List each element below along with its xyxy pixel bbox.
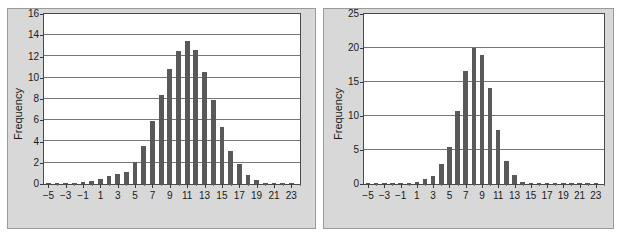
bar — [141, 146, 146, 184]
x-minor-tick-mark — [144, 184, 145, 186]
bar — [463, 71, 467, 184]
bar — [124, 172, 129, 184]
bar — [447, 147, 451, 184]
y-tick-mark — [40, 163, 44, 164]
y-tick-mark — [360, 82, 364, 83]
x-tick-mark — [274, 184, 275, 188]
x-tick-label: −1 — [74, 191, 92, 201]
x-minor-tick-mark — [109, 184, 110, 186]
bar-series-right — [364, 14, 604, 184]
x-minor-tick-mark — [376, 184, 377, 186]
x-tick-mark — [257, 184, 258, 188]
y-tick-label: 0 — [337, 179, 359, 189]
y-tick-mark — [40, 78, 44, 79]
x-minor-tick-mark — [604, 184, 605, 186]
bar — [455, 111, 459, 184]
x-tick-mark — [433, 184, 434, 188]
bar — [176, 51, 181, 184]
x-tick-label: 3 — [109, 191, 127, 201]
x-tick-mark — [515, 184, 516, 188]
x-minor-tick-mark — [213, 184, 214, 186]
x-tick-mark — [596, 184, 597, 188]
x-minor-tick-mark — [523, 184, 524, 186]
y-tick-mark — [40, 14, 44, 15]
x-tick-mark — [401, 184, 402, 188]
bar — [472, 48, 476, 184]
x-tick-label: −3 — [57, 191, 75, 201]
y-tick-label: 12 — [17, 52, 39, 62]
x-tick-mark — [66, 184, 67, 188]
x-tick-mark — [118, 184, 119, 188]
y-tick-mark — [40, 35, 44, 36]
x-tick-mark — [152, 184, 153, 188]
bar — [246, 175, 251, 184]
x-tick-label: 9 — [161, 191, 179, 201]
x-minor-tick-mark — [571, 184, 572, 186]
y-tick-mark — [40, 120, 44, 121]
x-minor-tick-mark — [458, 184, 459, 186]
x-minor-tick-mark — [265, 184, 266, 186]
x-tick-label: 17 — [230, 191, 248, 201]
x-minor-tick-mark — [409, 184, 410, 186]
y-tick-mark — [360, 150, 364, 151]
x-tick-mark — [547, 184, 548, 188]
x-tick-mark — [48, 184, 49, 188]
x-tick-mark — [291, 184, 292, 188]
x-tick-label: 5 — [126, 191, 144, 201]
bar — [202, 72, 207, 184]
x-tick-mark — [531, 184, 532, 188]
y-tick-mark — [360, 48, 364, 49]
x-minor-tick-mark — [283, 184, 284, 186]
x-tick-label: 13 — [196, 191, 214, 201]
x-tick-mark — [170, 184, 171, 188]
x-tick-label: 1 — [91, 191, 109, 201]
x-minor-tick-mark — [57, 184, 58, 186]
x-minor-tick-mark — [74, 184, 75, 186]
x-tick-mark — [222, 184, 223, 188]
y-tick-label: 10 — [337, 111, 359, 121]
x-minor-tick-mark — [441, 184, 442, 186]
y-tick-label: 14 — [17, 30, 39, 40]
y-tick-label: 25 — [337, 9, 359, 19]
x-tick-mark — [83, 184, 84, 188]
x-tick-mark — [135, 184, 136, 188]
x-minor-tick-mark — [92, 184, 93, 186]
x-tick-mark — [580, 184, 581, 188]
y-tick-label: 4 — [17, 137, 39, 147]
bar — [150, 121, 155, 184]
y-tick-label: 10 — [17, 73, 39, 83]
y-tick-mark — [40, 99, 44, 100]
x-tick-mark — [498, 184, 499, 188]
x-minor-tick-mark — [196, 184, 197, 186]
y-tick-mark — [40, 57, 44, 58]
bar — [159, 95, 164, 184]
bar — [228, 151, 233, 184]
y-tick-mark — [40, 142, 44, 143]
bar — [107, 176, 112, 184]
x-tick-mark — [482, 184, 483, 188]
x-minor-tick-mark — [474, 184, 475, 186]
bar — [185, 41, 190, 184]
y-tick-mark — [360, 116, 364, 117]
y-tick-mark — [40, 184, 44, 185]
bar — [193, 50, 198, 184]
bar — [211, 100, 216, 184]
y-tick-label: 6 — [17, 115, 39, 125]
plot-area-left — [43, 13, 301, 185]
bar — [115, 174, 120, 184]
x-minor-tick-mark — [392, 184, 393, 186]
x-tick-mark — [417, 184, 418, 188]
bar — [480, 55, 484, 184]
x-tick-mark — [187, 184, 188, 188]
bar — [512, 175, 516, 184]
x-minor-tick-mark — [555, 184, 556, 186]
x-tick-label: 7 — [143, 191, 161, 201]
x-tick-label: 15 — [213, 191, 231, 201]
plot-area-right — [363, 13, 605, 185]
x-minor-tick-mark — [588, 184, 589, 186]
x-minor-tick-mark — [425, 184, 426, 186]
bar — [431, 176, 435, 184]
x-tick-mark — [205, 184, 206, 188]
x-minor-tick-mark — [490, 184, 491, 186]
x-tick-mark — [563, 184, 564, 188]
